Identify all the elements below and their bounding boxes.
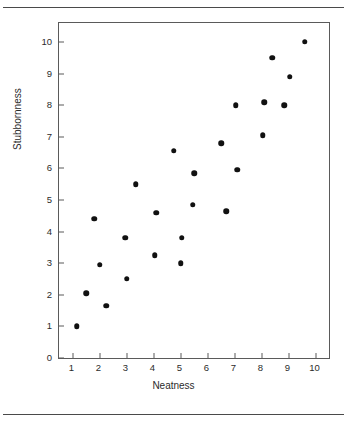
- data-point: [234, 167, 240, 173]
- y-axis-tick: [59, 73, 64, 74]
- data-point: [122, 235, 128, 241]
- data-point: [302, 39, 308, 45]
- y-axis-tick-label: 5: [28, 193, 52, 204]
- plot-area: [59, 23, 329, 358]
- y-axis-tick-label: 9: [28, 67, 52, 78]
- data-point: [282, 102, 288, 108]
- data-point: [261, 99, 267, 105]
- data-point: [190, 202, 196, 208]
- x-axis-tick: [315, 353, 316, 358]
- data-point: [74, 324, 80, 330]
- x-axis-tick-label: 8: [258, 362, 263, 373]
- data-point: [287, 74, 293, 80]
- data-point: [179, 235, 185, 241]
- y-axis-label: Stubbornness: [12, 88, 23, 150]
- data-point: [218, 140, 224, 146]
- x-axis-tick: [261, 353, 262, 358]
- x-axis-tick-label: 10: [309, 362, 320, 373]
- x-axis-tick-label: 2: [96, 362, 101, 373]
- y-axis-tick-label: 6: [28, 162, 52, 173]
- x-axis-tick: [207, 353, 208, 358]
- y-axis-tick-label: 2: [28, 288, 52, 299]
- data-point: [104, 303, 110, 309]
- y-axis-tick: [59, 199, 64, 200]
- x-axis-tick: [153, 353, 154, 358]
- y-axis-tick-label: 0: [28, 352, 52, 363]
- y-axis-tick-label: 10: [28, 35, 52, 46]
- y-axis-tick: [59, 41, 64, 42]
- y-axis-tick: [59, 263, 64, 264]
- y-axis-tick-label: 1: [28, 320, 52, 331]
- y-axis-tick: [59, 358, 64, 359]
- y-axis-tick-label: 4: [28, 225, 52, 236]
- x-axis-tick-label: 5: [177, 362, 182, 373]
- data-point: [153, 210, 159, 216]
- x-axis-tick: [72, 353, 73, 358]
- y-axis-tick: [59, 168, 64, 169]
- data-point: [191, 170, 197, 176]
- x-axis-tick-label: 9: [285, 362, 290, 373]
- data-point: [260, 132, 266, 138]
- data-point: [91, 216, 97, 222]
- x-axis-tick-label: 3: [123, 362, 128, 373]
- scatter-plot-figure: Neatness Stubbornness 123456789100123456…: [0, 0, 347, 422]
- y-axis-tick: [59, 136, 64, 137]
- x-axis-tick: [234, 353, 235, 358]
- data-point: [270, 55, 276, 61]
- data-point: [97, 262, 103, 268]
- x-axis-tick: [180, 353, 181, 358]
- y-axis-tick: [59, 105, 64, 106]
- x-axis-tick: [99, 353, 100, 358]
- data-point: [83, 290, 89, 296]
- x-axis-tick: [126, 353, 127, 358]
- x-axis-tick-label: 7: [231, 362, 236, 373]
- y-axis-tick: [59, 231, 64, 232]
- data-point: [233, 102, 239, 108]
- y-axis-tick-label: 3: [28, 257, 52, 268]
- y-axis-tick: [59, 326, 64, 327]
- x-axis-tick-label: 1: [69, 362, 74, 373]
- data-point: [152, 253, 158, 259]
- data-point: [224, 208, 230, 214]
- data-point: [171, 148, 177, 154]
- x-axis-label: Neatness: [0, 380, 347, 391]
- y-axis-tick-label: 7: [28, 130, 52, 141]
- y-axis-tick: [59, 294, 64, 295]
- data-point: [178, 260, 184, 266]
- x-axis-tick-label: 4: [150, 362, 155, 373]
- x-axis-tick: [288, 353, 289, 358]
- y-axis-tick-label: 8: [28, 99, 52, 110]
- data-point: [124, 276, 130, 282]
- x-axis-tick-label: 6: [204, 362, 209, 373]
- data-point: [133, 181, 139, 187]
- plot-frame: [58, 22, 330, 359]
